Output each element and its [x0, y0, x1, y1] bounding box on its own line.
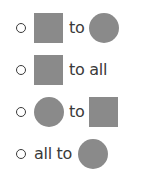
radio-button[interactable] [16, 65, 26, 75]
square-shape [89, 97, 118, 127]
radio-button[interactable] [16, 107, 26, 117]
radio-button[interactable] [16, 149, 26, 159]
square-shape [34, 55, 63, 85]
circle-shape [78, 139, 108, 169]
connector-label: to [69, 102, 84, 122]
radio-button[interactable] [16, 23, 26, 33]
connector-label: to [69, 18, 84, 38]
circle-shape [34, 97, 64, 127]
option-circle-to-square[interactable]: to [0, 95, 168, 129]
option-square-to-circle[interactable]: to [0, 11, 168, 45]
connector-label: to all [69, 60, 107, 80]
circle-shape [89, 13, 119, 43]
square-shape [34, 13, 63, 43]
option-square-to-all[interactable]: to all [0, 53, 168, 87]
option-all-to-circle[interactable]: all to [0, 137, 168, 171]
prefix-label: all to [34, 144, 72, 164]
